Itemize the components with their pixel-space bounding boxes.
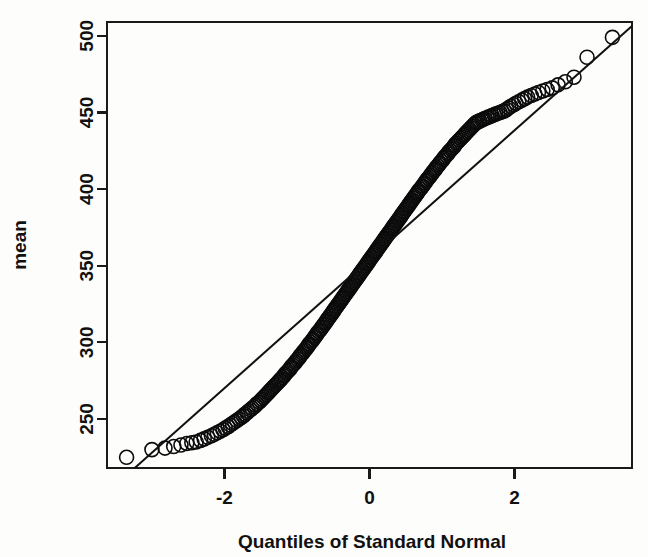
y-tick-label: 300: [77, 326, 98, 358]
x-tick-label: 0: [364, 487, 375, 508]
y-tick-label: 450: [77, 97, 98, 129]
y-axis-title: mean: [9, 220, 30, 270]
x-tick-label: -2: [216, 487, 233, 508]
qq-plot-figure: 250300350400450500 -202 Quantiles of Sta…: [0, 0, 648, 557]
y-axis-ticks: 250300350400450500: [77, 20, 108, 435]
scatter-points: [120, 30, 620, 464]
y-tick-label: 500: [77, 20, 98, 52]
y-tick-label: 350: [77, 250, 98, 282]
y-tick-label: 250: [77, 403, 98, 435]
y-tick-label: 400: [77, 173, 98, 205]
x-axis-ticks: -202: [216, 468, 520, 508]
data-point: [120, 450, 134, 464]
reference-line: [135, 26, 632, 468]
qq-reference-line: [135, 26, 632, 468]
x-axis-title: Quantiles of Standard Normal: [238, 531, 506, 552]
chart-canvas: 250300350400450500 -202 Quantiles of Sta…: [0, 0, 648, 557]
x-tick-label: 2: [509, 487, 520, 508]
